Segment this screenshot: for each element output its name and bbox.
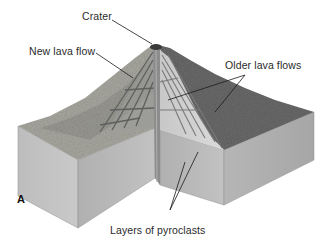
crater-opening <box>150 44 162 50</box>
new-lava-flow-label: New lava flow <box>29 45 95 57</box>
panel-label: A <box>17 193 25 205</box>
pyroclasts-label: Layers of pyroclasts <box>110 224 205 236</box>
composite-volcano-diagram: Crater New lava flow Older lava flows La… <box>0 0 329 245</box>
older-lava-flows-label: Older lava flows <box>225 59 301 71</box>
crater-label: Crater <box>82 10 112 22</box>
volcano-cross-section-illustration <box>0 0 329 245</box>
crater-leader <box>112 20 152 44</box>
